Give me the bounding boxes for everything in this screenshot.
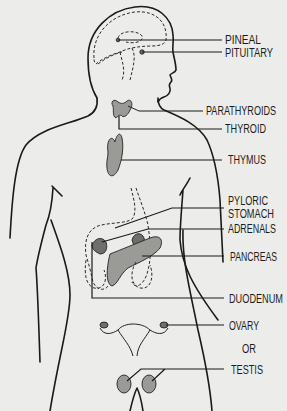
body-outline [10,7,223,411]
label-duodenum: DUODENUM [229,292,283,306]
arm-right-inner [180,178,218,320]
torso-left [50,220,70,411]
label-ovary: OVARY [229,319,259,333]
label-pancreas: PANCREAS [230,250,277,264]
crotch [130,388,143,411]
arm-left-inner [36,186,62,362]
pancreas-gland [107,237,161,286]
label-adrenals: ADRENALS [228,222,276,236]
head-outline [88,7,176,102]
neck-shoulder-left [10,98,97,238]
label-stomach: STOMACH [228,207,274,221]
leader-pyloric-stomach [115,208,224,228]
leader-adrenals [102,229,224,242]
label-parathyroids: PARATHYROIDS [206,104,276,118]
label-thyroid: THYROID [225,122,266,136]
label-thymus: THYMUS [228,153,266,167]
thyroid-gland [112,100,132,118]
ovary-left [100,322,108,328]
label-or: OR [242,342,256,356]
label-pituitary: PITUITARY [225,46,273,60]
leader-testis [127,369,224,381]
label-testis: TESTIS [231,363,263,377]
label-pyloric: PYLORIC [228,194,268,208]
label-pineal: PINEAL [225,33,261,47]
torso-right [183,230,212,411]
thymus-gland [107,134,123,176]
leader-lines [92,40,224,381]
brain-outline [94,12,166,80]
ovary-uterus [100,322,168,356]
neck-shoulder-right [158,98,223,262]
endocrine-diagram: PINEAL PITUITARY PARATHYROIDS THYROID TH… [0,0,287,411]
testis-right [142,375,156,393]
testis-left [117,375,131,393]
